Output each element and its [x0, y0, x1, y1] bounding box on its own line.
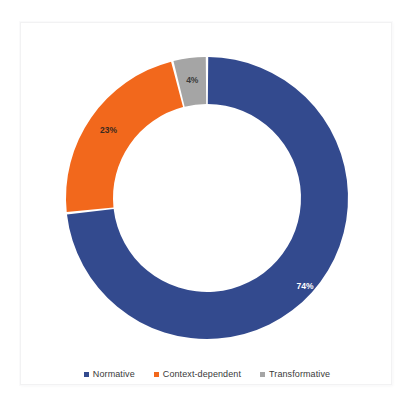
slice-data-label-context-dependent: 23%	[100, 125, 117, 135]
legend-item-label: Transformative	[269, 370, 330, 379]
legend-item-label: Normative	[93, 370, 135, 379]
legend-item-normative[interactable]: Normative	[84, 370, 135, 379]
donut-slice-context-dependent[interactable]	[66, 62, 183, 212]
slice-data-label-transformative: 4%	[186, 75, 199, 85]
legend-item-transformative[interactable]: Transformative	[260, 370, 330, 379]
slice-data-label-normative: 74%	[296, 281, 313, 291]
chart-card: 74%23%4% NormativeContext-dependentTrans…	[20, 22, 392, 385]
donut-chart-plot-area: 74%23%4%	[21, 23, 393, 363]
legend-item-context-dependent[interactable]: Context-dependent	[154, 370, 241, 379]
legend-square-swatch-icon	[154, 372, 159, 377]
legend-square-swatch-icon	[84, 372, 89, 377]
chart-legend: NormativeContext-dependentTransformative	[21, 363, 393, 385]
legend-square-swatch-icon	[260, 372, 265, 377]
donut-chart-svg: 74%23%4%	[21, 23, 393, 363]
legend-item-label: Context-dependent	[163, 370, 241, 379]
